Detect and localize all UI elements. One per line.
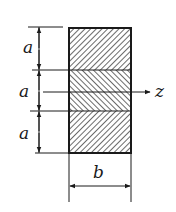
label-b: b [93,162,104,182]
layer-bottom [69,111,131,153]
label-z: z [154,81,165,101]
layer-middle [69,70,131,111]
label-a-middle: a [19,81,29,101]
layer-top [69,28,131,70]
label-a-top: a [23,37,33,57]
cross-section-diagram: a a a z b [0,0,176,212]
label-a-bottom: a [19,123,29,143]
